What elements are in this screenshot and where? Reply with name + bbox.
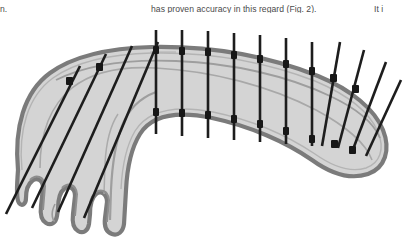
figure-anatomical-drawing	[0, 18, 403, 240]
node	[231, 115, 237, 123]
node	[352, 85, 359, 93]
node	[179, 109, 185, 117]
node	[331, 140, 338, 148]
node	[231, 51, 237, 59]
node	[257, 120, 263, 128]
text-fragment-left-column: n.	[0, 5, 7, 14]
node	[66, 77, 73, 85]
node	[309, 135, 315, 143]
node	[309, 67, 315, 75]
node	[330, 74, 337, 82]
node	[283, 60, 289, 68]
node	[283, 127, 289, 135]
scanned-page: n. has proven accuracy in this regard (F…	[0, 0, 403, 240]
text-fragment-right-column: It i	[374, 5, 383, 14]
node	[179, 47, 185, 55]
node	[257, 55, 263, 63]
figure-svg	[0, 18, 403, 240]
node	[153, 108, 159, 116]
node	[349, 146, 356, 154]
text-fragment-middle-column: has proven accuracy in this regard (Fig.…	[151, 5, 317, 14]
node	[205, 48, 211, 56]
node	[205, 111, 211, 119]
node	[153, 46, 159, 54]
scan-crop-edge	[0, 0, 403, 4]
node	[96, 63, 103, 71]
